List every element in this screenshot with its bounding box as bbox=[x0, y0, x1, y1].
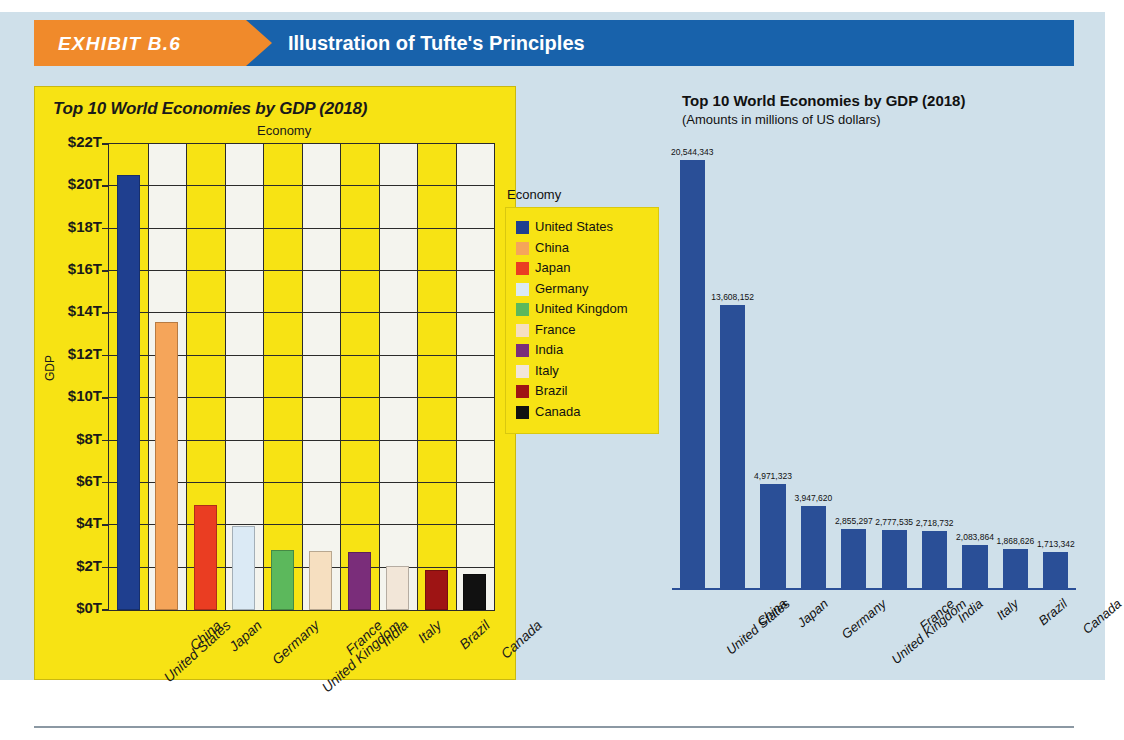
legend-color-swatch bbox=[516, 221, 529, 234]
left-chart-ytick-label: $10T bbox=[40, 387, 102, 404]
left-chart-gridline-horizontal bbox=[109, 143, 494, 144]
left-chart-legend: United StatesChinaJapanGermanyUnited Kin… bbox=[505, 207, 659, 434]
right-chart-data-label: 20,544,343 bbox=[666, 147, 718, 157]
left-chart-bar bbox=[309, 551, 332, 610]
legend-color-swatch bbox=[516, 303, 529, 316]
left-chart-ytick-label: $8T bbox=[40, 430, 102, 447]
right-chart-xtick-label: Japan bbox=[794, 596, 831, 630]
page-bottom-rule bbox=[34, 726, 1074, 728]
left-chart-bar bbox=[232, 526, 255, 610]
left-chart-column-band bbox=[340, 144, 379, 610]
right-chart-bar bbox=[1043, 552, 1068, 588]
left-chart-ytick-label: $16T bbox=[40, 260, 102, 277]
exhibit-banner: EXHIBIT B.6 Illustration of Tufte's Prin… bbox=[34, 20, 1074, 66]
left-chart-plot-area bbox=[108, 143, 495, 611]
left-chart-ytick-label: $4T bbox=[40, 514, 102, 531]
legend-color-swatch bbox=[516, 406, 529, 419]
legend-item-label: Germany bbox=[535, 281, 588, 296]
left-chart-bar bbox=[386, 566, 409, 610]
left-cluttered-chart: Top 10 World Economies by GDP (2018) Eco… bbox=[34, 86, 516, 680]
left-chart-gridline-vertical bbox=[148, 144, 149, 610]
right-chart-data-label: 3,947,620 bbox=[787, 493, 839, 503]
right-chart-bar bbox=[760, 484, 785, 588]
left-chart-column-band bbox=[302, 144, 341, 610]
left-chart-ytick-label: $20T bbox=[40, 175, 102, 192]
left-chart-gridline-vertical bbox=[340, 144, 341, 610]
left-chart-gridline-vertical bbox=[186, 144, 187, 610]
left-chart-gridline-vertical bbox=[456, 144, 457, 610]
left-chart-gridline-horizontal bbox=[109, 228, 494, 229]
exhibit-tab-arrow-icon bbox=[246, 20, 272, 66]
right-clean-chart: Top 10 World Economies by GDP (2018) (Am… bbox=[652, 86, 1092, 678]
legend-item-label: United States bbox=[535, 219, 613, 234]
legend-color-swatch bbox=[516, 365, 529, 378]
left-chart-bar bbox=[194, 505, 217, 610]
legend-item-label: Canada bbox=[535, 404, 581, 419]
exhibit-number: EXHIBIT B.6 bbox=[58, 33, 181, 55]
left-chart-ytick-label: $18T bbox=[40, 218, 102, 235]
right-chart-title: Top 10 World Economies by GDP (2018) bbox=[682, 92, 965, 109]
right-chart-bar bbox=[720, 305, 745, 588]
legend-color-swatch bbox=[516, 344, 529, 357]
left-chart-ytick-label: $14T bbox=[40, 302, 102, 319]
legend-color-swatch bbox=[516, 283, 529, 296]
left-chart-column-band bbox=[456, 144, 495, 610]
right-chart-subtitle: (Amounts in millions of US dollars) bbox=[682, 112, 881, 127]
legend-item-label: United Kingdom bbox=[535, 301, 628, 316]
right-chart-baseline-axis bbox=[672, 588, 1076, 590]
left-chart-xtick-label: Germany bbox=[269, 617, 322, 667]
legend-item-label: India bbox=[535, 342, 563, 357]
left-chart-gridline-vertical bbox=[263, 144, 264, 610]
left-chart-bar bbox=[117, 175, 140, 610]
right-chart-data-label: 1,713,342 bbox=[1030, 539, 1082, 549]
exhibit-title: Illustration of Tufte's Principles bbox=[288, 32, 585, 55]
right-chart-bar bbox=[801, 506, 826, 588]
right-chart-bar bbox=[882, 530, 907, 588]
left-chart-legend-title: Economy bbox=[507, 187, 561, 202]
right-chart-data-label: 13,608,152 bbox=[707, 292, 759, 302]
left-chart-ytick-label: $6T bbox=[40, 472, 102, 489]
right-chart-bar bbox=[841, 529, 866, 588]
left-chart-column-band bbox=[379, 144, 418, 610]
left-chart-xtick-label: Italy bbox=[415, 617, 445, 646]
left-chart-xtick-label: Japan bbox=[226, 617, 265, 654]
legend-color-swatch bbox=[516, 262, 529, 275]
right-chart-bar bbox=[680, 160, 705, 588]
left-chart-column-band bbox=[417, 144, 456, 610]
left-chart-xtick-label: Brazil bbox=[456, 617, 493, 652]
left-chart-gridline-horizontal bbox=[109, 185, 494, 186]
right-chart-bar bbox=[922, 531, 947, 588]
legend-item-label: Italy bbox=[535, 363, 559, 378]
right-chart-data-label: 4,971,323 bbox=[747, 471, 799, 481]
left-chart-gridline-vertical bbox=[302, 144, 303, 610]
right-chart-plot-area: 20,544,34313,608,1524,971,3233,947,6202,… bbox=[672, 138, 1092, 588]
left-chart-ytick-label: $12T bbox=[40, 345, 102, 362]
right-chart-xtick-label: Brazil bbox=[1036, 596, 1071, 628]
right-chart-xtick-label: Germany bbox=[839, 596, 890, 642]
legend-item-label: Brazil bbox=[535, 383, 568, 398]
left-chart-gridline-vertical bbox=[225, 144, 226, 610]
left-chart-bar bbox=[463, 574, 486, 610]
legend-item-label: France bbox=[535, 322, 575, 337]
left-chart-bar bbox=[425, 570, 448, 610]
left-chart-gridline-vertical bbox=[417, 144, 418, 610]
legend-color-swatch bbox=[516, 324, 529, 337]
left-chart-gridline-horizontal bbox=[109, 312, 494, 313]
left-chart-title: Top 10 World Economies by GDP (2018) bbox=[53, 99, 367, 119]
left-chart-ytick-label: $2T bbox=[40, 557, 102, 574]
left-chart-xaxis-caption: Economy bbox=[257, 123, 311, 138]
left-chart-column-band bbox=[263, 144, 302, 610]
legend-color-swatch bbox=[516, 242, 529, 255]
legend-color-swatch bbox=[516, 385, 529, 398]
right-chart-data-label: 2,718,732 bbox=[909, 518, 961, 528]
left-chart-bar bbox=[348, 552, 371, 610]
left-chart-gridline-vertical bbox=[379, 144, 380, 610]
left-chart-bar bbox=[155, 322, 178, 610]
right-chart-bar bbox=[962, 545, 987, 588]
left-chart-ytick-label: $0T bbox=[40, 599, 102, 616]
right-chart-xtick-label: Italy bbox=[994, 596, 1022, 623]
left-chart-gridline-horizontal bbox=[109, 270, 494, 271]
right-chart-bar bbox=[1003, 549, 1028, 588]
legend-item-label: Japan bbox=[535, 260, 570, 275]
